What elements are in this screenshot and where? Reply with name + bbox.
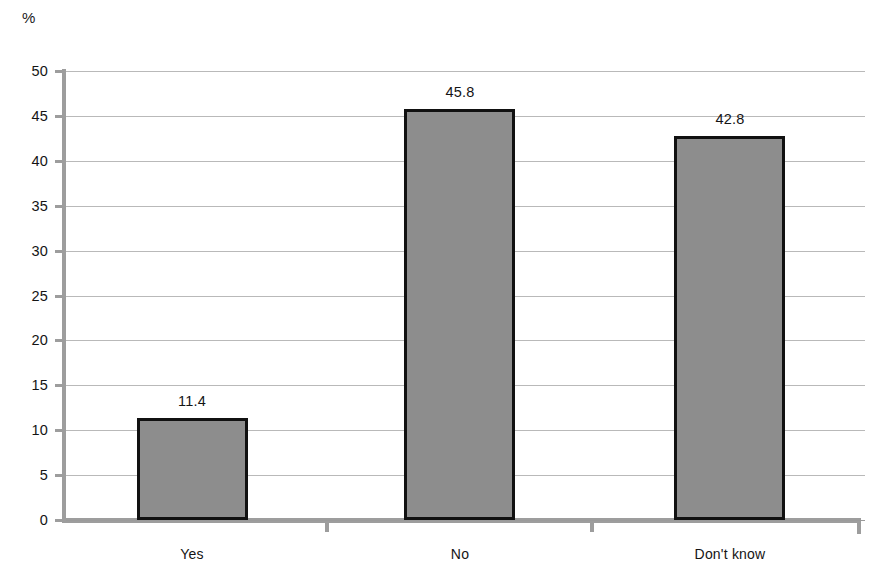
bar xyxy=(137,418,248,520)
bar xyxy=(404,109,515,520)
y-axis-tick-mark xyxy=(55,384,63,387)
y-axis-tick-mark xyxy=(55,115,63,118)
y-axis-unit-label: % xyxy=(22,10,36,25)
y-axis-tick-label: 20 xyxy=(0,333,48,348)
y-axis-tick-label: 15 xyxy=(0,378,48,393)
x-axis-category-label: No xyxy=(380,547,540,561)
bar-chart: % 50454035302520151050 11.445.842.8 YesN… xyxy=(0,0,889,582)
y-axis-tick-mark xyxy=(55,429,63,432)
y-axis-tick-label: 35 xyxy=(0,199,48,214)
x-axis-tick-mark xyxy=(590,523,594,532)
x-axis-category-label: Don't know xyxy=(650,547,810,561)
x-axis-category-label: Yes xyxy=(112,547,272,561)
y-axis-tick-label: 25 xyxy=(0,289,48,304)
y-axis-tick-mark xyxy=(55,474,63,477)
y-axis-tick-label: 10 xyxy=(0,423,48,438)
gridline xyxy=(66,520,865,521)
bar-value-label: 42.8 xyxy=(670,112,790,127)
y-axis-tick-label: 0 xyxy=(0,513,48,528)
x-axis-tick-mark xyxy=(325,523,329,532)
y-axis-tick-label: 40 xyxy=(0,154,48,169)
bar xyxy=(674,136,785,520)
y-axis-tick-label: 45 xyxy=(0,109,48,124)
y-axis-tick-mark xyxy=(55,295,63,298)
x-axis-end-tick xyxy=(857,523,861,534)
bar-value-label: 45.8 xyxy=(400,85,520,100)
y-axis-tick-mark xyxy=(55,250,63,253)
y-axis-tick-label: 50 xyxy=(0,64,48,79)
y-axis-tick-mark xyxy=(55,205,63,208)
y-axis-tick-mark xyxy=(55,160,63,163)
gridline xyxy=(66,71,865,72)
y-axis-tick-mark xyxy=(55,70,63,73)
y-axis-tick-label: 5 xyxy=(0,468,48,483)
bar-value-label: 11.4 xyxy=(132,394,252,409)
y-axis-tick-label: 30 xyxy=(0,244,48,259)
y-axis-tick-mark xyxy=(55,339,63,342)
y-axis-tick-mark xyxy=(55,519,63,522)
